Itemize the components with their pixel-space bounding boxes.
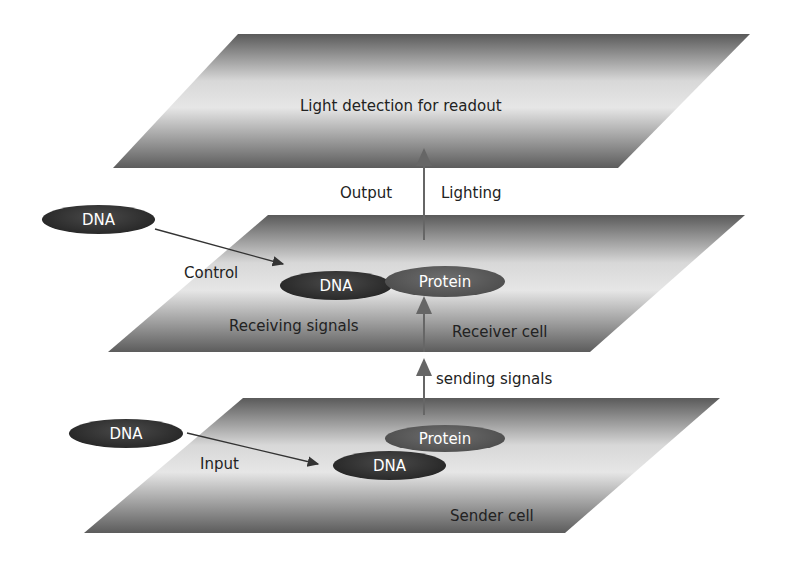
control-label: Control — [184, 266, 238, 281]
receiving-signals-label: Receiving signals — [229, 319, 359, 334]
sender-dna-node: DNA — [333, 451, 446, 480]
output-label: Output — [340, 186, 392, 201]
input-dna-node: DNA — [69, 419, 183, 448]
receiver-dna-node: DNA — [280, 271, 392, 300]
lighting-label: Lighting — [441, 186, 502, 201]
receiver-protein-node: Protein — [385, 266, 505, 297]
control-dna-node: DNA — [42, 205, 155, 234]
readout-label: Light detection for readout — [300, 99, 502, 114]
receiver-cell-label: Receiver cell — [452, 325, 547, 340]
sender-protein-node: Protein — [385, 425, 505, 452]
sending-signals-label: sending signals — [436, 372, 552, 387]
input-label: Input — [200, 457, 239, 472]
sender-cell-label: Sender cell — [450, 509, 534, 524]
